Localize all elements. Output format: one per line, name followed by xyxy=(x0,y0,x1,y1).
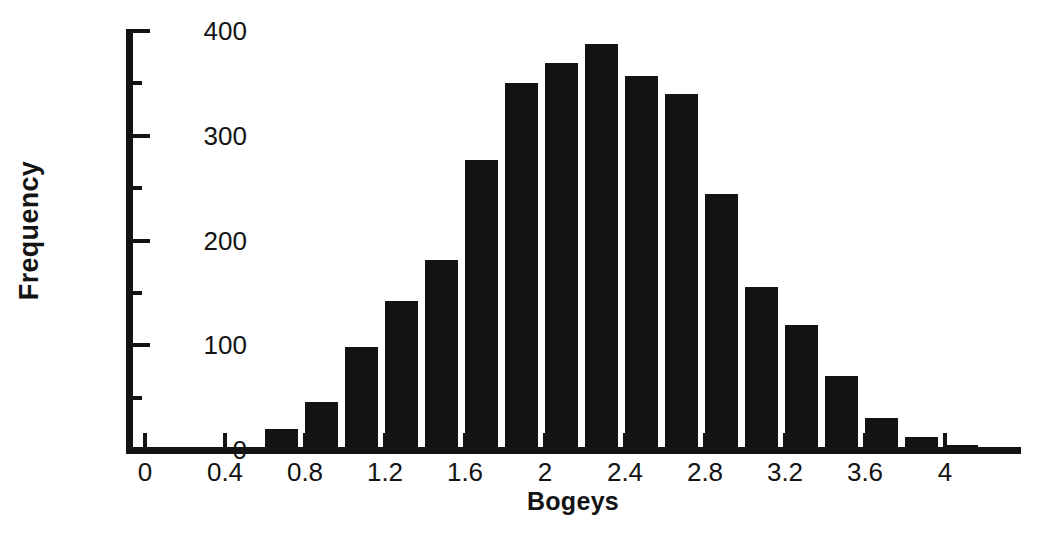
histogram-bar xyxy=(585,44,618,450)
histogram-bar xyxy=(385,301,418,450)
histogram-bar xyxy=(265,429,298,450)
y-axis-tick-minor xyxy=(133,186,142,190)
histogram-bar xyxy=(665,94,698,450)
y-axis-tick-major xyxy=(133,448,150,452)
y-axis-tick-major xyxy=(133,343,150,347)
y-axis-tick-major xyxy=(133,134,150,138)
x-axis-tick-label: 3.6 xyxy=(847,457,883,488)
y-axis-tick-minor xyxy=(133,396,142,400)
histogram-bar xyxy=(825,376,858,450)
y-axis-tick-major xyxy=(133,239,150,243)
x-axis-tick-label: 2 xyxy=(538,457,552,488)
plot-area: 010020030040000.40.81.21.622.42.83.23.64 xyxy=(0,0,1053,549)
y-axis-tick-major xyxy=(133,29,150,33)
histogram-bar xyxy=(945,445,978,450)
histogram-bar xyxy=(345,347,378,450)
x-axis-tick-label: 2.8 xyxy=(687,457,723,488)
histogram-bar xyxy=(505,83,538,450)
x-axis-tick-label: 3.2 xyxy=(767,457,803,488)
x-axis-tick-label: 1.2 xyxy=(367,457,403,488)
histogram-bar xyxy=(305,402,338,450)
x-axis-tick-label: 0.8 xyxy=(287,457,323,488)
x-axis-tick xyxy=(223,433,227,447)
x-axis-tick-label: 2.4 xyxy=(607,457,643,488)
histogram-bar xyxy=(465,160,498,450)
histogram-bar xyxy=(425,260,458,450)
y-axis-tick-minor xyxy=(133,81,142,85)
histogram-figure: Frequency 010020030040000.40.81.21.622.4… xyxy=(0,0,1053,549)
histogram-bar xyxy=(745,287,778,450)
x-axis-tick xyxy=(143,433,147,447)
histogram-bar xyxy=(705,194,738,450)
y-axis-spine xyxy=(126,29,133,454)
histogram-bar xyxy=(865,418,898,450)
histogram-bar xyxy=(545,63,578,450)
histogram-bar xyxy=(625,76,658,450)
histogram-bar xyxy=(905,437,938,450)
x-axis-tick-label: 0.4 xyxy=(207,457,243,488)
y-axis-tick-minor xyxy=(133,291,142,295)
histogram-bar xyxy=(785,325,818,450)
x-axis-tick-label: 4 xyxy=(938,457,952,488)
x-axis-tick-label: 1.6 xyxy=(447,457,483,488)
x-axis-tick-label: 0 xyxy=(138,457,152,488)
x-axis-title: Bogeys xyxy=(133,487,1013,516)
